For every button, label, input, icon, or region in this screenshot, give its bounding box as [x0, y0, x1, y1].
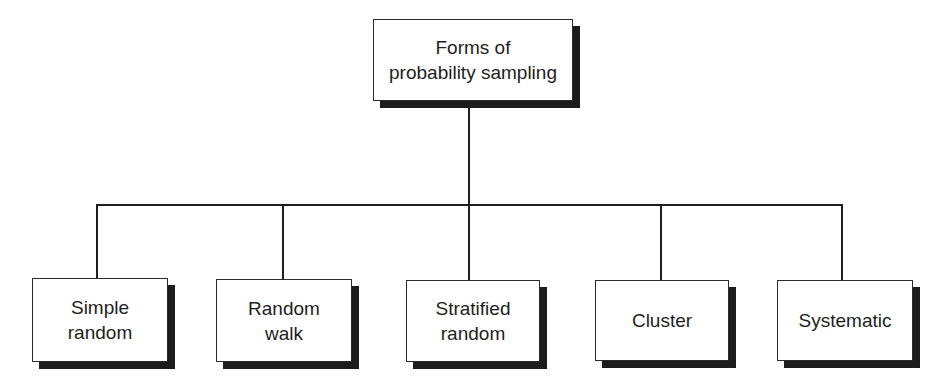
child-node-systematic: Systematic — [777, 280, 913, 361]
connector-to-simple-random — [96, 204, 98, 279]
child-node-label: Random walk — [248, 296, 320, 346]
child-node-label: Cluster — [632, 308, 692, 333]
child-node-stratified-random: Stratified random — [406, 280, 540, 362]
child-node-label: Systematic — [799, 308, 892, 333]
root-node-forms-of-probability-sampling: Forms of probability sampling — [373, 19, 573, 101]
child-node-random-walk: Random walk — [216, 279, 352, 362]
connector-to-systematic — [841, 204, 843, 281]
child-node-cluster: Cluster — [595, 280, 729, 361]
connector-root-trunk — [468, 101, 470, 206]
child-node-label: Stratified random — [436, 296, 511, 346]
child-node-simple-random: Simple random — [32, 278, 168, 362]
sampling-tree-diagram: Forms of probability sampling Simple ran… — [0, 0, 937, 388]
connector-to-random-walk — [282, 204, 284, 280]
connector-to-stratified-random — [468, 204, 470, 281]
connector-to-cluster — [660, 204, 662, 281]
child-node-label: Simple random — [68, 295, 132, 345]
root-node-label: Forms of probability sampling — [389, 35, 557, 85]
